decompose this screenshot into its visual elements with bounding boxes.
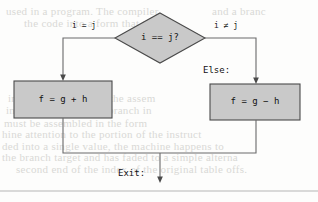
else-annotation-label: Else: [203,65,230,75]
false-branch-label: i ≠ j [214,21,238,30]
exit-annotation-label: Exit: [118,168,145,178]
else-box-label: f = g − h [210,96,300,106]
then-box-label: f = g + h [14,94,112,104]
true-branch-label: i = j [72,21,96,30]
decision-label: i == j? [115,32,205,42]
then-merge-connector [63,118,160,153]
true-branch-connector [63,38,115,78]
else-merge-connector [160,120,256,153]
flowchart-page: used in a program. The compiler and a br… [0,0,318,202]
